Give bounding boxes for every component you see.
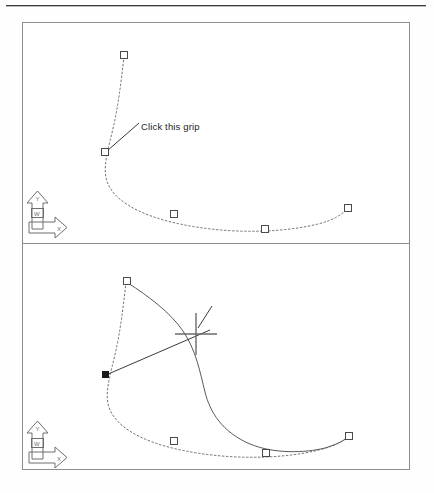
- top-viewport-canvas[interactable]: W Y X: [0, 0, 434, 243]
- crosshair-cursor[interactable]: [175, 313, 217, 355]
- spline-stretched[interactable]: [128, 283, 349, 452]
- ucs-icon: W Y X: [27, 421, 67, 468]
- grip-right[interactable]: [346, 433, 353, 440]
- ucs-world-label: W: [34, 441, 40, 447]
- ucs-y-label: Y: [36, 426, 40, 432]
- grip-top[interactable]: [121, 52, 128, 59]
- grip-top[interactable]: [124, 278, 131, 285]
- callout-leader-line: [107, 123, 139, 151]
- bottom-viewport[interactable]: W Y X Move the grip here: [0, 243, 434, 493]
- callout-leader-line: [198, 306, 212, 328]
- ucs-icon: W Y X: [27, 191, 67, 238]
- ucs-world-label: W: [34, 211, 40, 217]
- ucs-y-label: Y: [36, 196, 40, 202]
- figure-page: W Y X Click this grip: [0, 0, 434, 493]
- grip-lower-left[interactable]: [171, 438, 178, 445]
- bottom-viewport-canvas[interactable]: W Y X: [0, 243, 434, 493]
- ucs-x-label: X: [57, 456, 61, 462]
- grip-upper-left[interactable]: [102, 149, 109, 156]
- grip-bottom[interactable]: [262, 226, 269, 233]
- grip-bottom[interactable]: [263, 450, 270, 457]
- grip-right[interactable]: [345, 205, 352, 212]
- callout-click-this-grip: Click this grip: [141, 122, 200, 132]
- grip-selected[interactable]: [103, 372, 109, 378]
- ucs-x-label: X: [57, 226, 61, 232]
- top-viewport[interactable]: W Y X Click this grip: [0, 0, 434, 243]
- spline-original[interactable]: [105, 56, 348, 231]
- grip-lower-left[interactable]: [171, 211, 178, 218]
